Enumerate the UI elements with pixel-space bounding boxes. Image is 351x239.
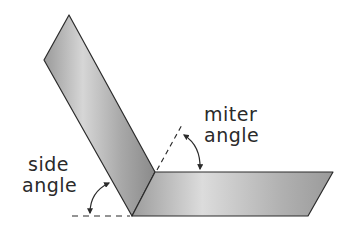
miter-label-line1: miter bbox=[204, 104, 259, 125]
side-angle-label: side angle bbox=[22, 154, 77, 196]
side-angle-arc-icon bbox=[90, 183, 109, 213]
base-bar bbox=[132, 172, 333, 216]
miter-reference-line bbox=[157, 123, 183, 170]
miter-side-angle-diagram bbox=[0, 0, 351, 239]
side-label-line1: side bbox=[22, 154, 77, 175]
miter-label-line2: angle bbox=[204, 125, 259, 146]
side-label-line2: angle bbox=[22, 175, 77, 196]
diagram-canvas: miter angle side angle bbox=[0, 0, 351, 239]
miter-angle-arc-icon bbox=[184, 135, 200, 169]
miter-angle-label: miter angle bbox=[204, 104, 259, 146]
